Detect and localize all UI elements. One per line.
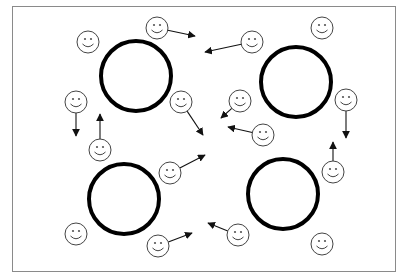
diagram-stage: (Quelle: Bruck / Müller) <box>0 0 404 280</box>
arrow-icon <box>187 111 203 135</box>
group-circles <box>89 41 331 234</box>
arrow-icon <box>205 44 241 52</box>
arrow-icon <box>228 127 252 133</box>
smiley-face-icon <box>252 124 274 146</box>
smiley-face-icon <box>146 17 168 39</box>
smiley-face-icon <box>229 90 251 112</box>
movement-arrows <box>76 30 346 242</box>
smiley-face-icon <box>65 223 87 245</box>
smiley-face-icon <box>65 91 87 113</box>
smiley-face-icon <box>322 161 344 183</box>
arrow-icon <box>180 155 205 168</box>
source-caption: (Quelle: Bruck / Müller) <box>2 268 16 280</box>
group-circle-top-right <box>261 47 331 117</box>
group-circle-bottom-right <box>248 159 318 229</box>
smiley-face-icon <box>77 31 99 53</box>
arrow-icon <box>168 30 195 36</box>
smiley-face-icon <box>89 139 111 161</box>
smiley-face-icon <box>335 89 357 111</box>
smiley-face-icon <box>170 91 192 113</box>
arrow-icon <box>208 223 228 231</box>
smiley-face-icon <box>159 162 181 184</box>
group-circle-bottom-left <box>89 164 159 234</box>
smiley-face-icon <box>241 31 263 53</box>
group-dynamics-diagram <box>0 0 404 280</box>
smiley-face-icon <box>311 17 333 39</box>
arrow-icon <box>168 233 192 242</box>
group-circle-top-left <box>101 41 171 111</box>
smiley-face-icon <box>227 224 249 246</box>
arrow-icon <box>221 108 232 118</box>
smiley-face-icon <box>311 233 333 255</box>
smiley-face-icon <box>147 235 169 257</box>
